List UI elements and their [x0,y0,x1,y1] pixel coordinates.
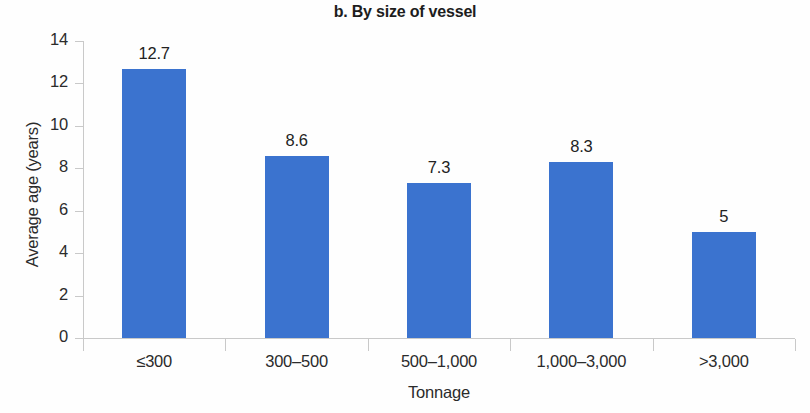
bar [122,69,186,338]
bar [692,232,756,338]
x-axis-separator [368,339,369,351]
x-axis-separator [83,339,84,351]
bar-value-label: 12.7 [104,44,204,63]
chart-figure: b. By size of vessel Average age (years)… [0,0,810,413]
bar [265,156,329,338]
bar [549,162,613,338]
x-axis-category-label: 300–500 [222,352,372,371]
y-axis-tick-label: 6 [30,200,68,219]
y-axis-tick-label: 4 [30,242,68,261]
x-axis-separator [225,339,226,351]
x-axis-separator [653,339,654,351]
x-axis-category-label: 500–1,000 [364,352,514,371]
x-axis-separator [795,339,796,351]
bars-layer [83,41,795,338]
chart-title: b. By size of vessel [0,3,810,21]
bar-value-label: 7.3 [389,158,489,177]
y-axis-tick-label: 0 [30,327,68,346]
y-axis-tick-label: 10 [30,115,68,134]
y-axis-tick-label: 12 [30,72,68,91]
y-axis-tick-label: 2 [30,285,68,304]
y-axis-title: Average age (years) [23,75,42,315]
x-axis-line [83,338,795,339]
bar [407,183,471,338]
bar-value-label: 5 [674,207,774,226]
bar-value-label: 8.6 [247,131,347,150]
y-axis-tick-label: 8 [30,157,68,176]
x-axis-category-label: ≤300 [79,352,229,371]
x-axis-title: Tonnage [83,383,795,402]
bar-value-label: 8.3 [531,137,631,156]
x-axis-category-label: >3,000 [649,352,799,371]
x-axis-category-label: 1,000–3,000 [506,352,656,371]
x-axis-separator [510,339,511,351]
y-axis-tick-label: 14 [30,30,68,49]
